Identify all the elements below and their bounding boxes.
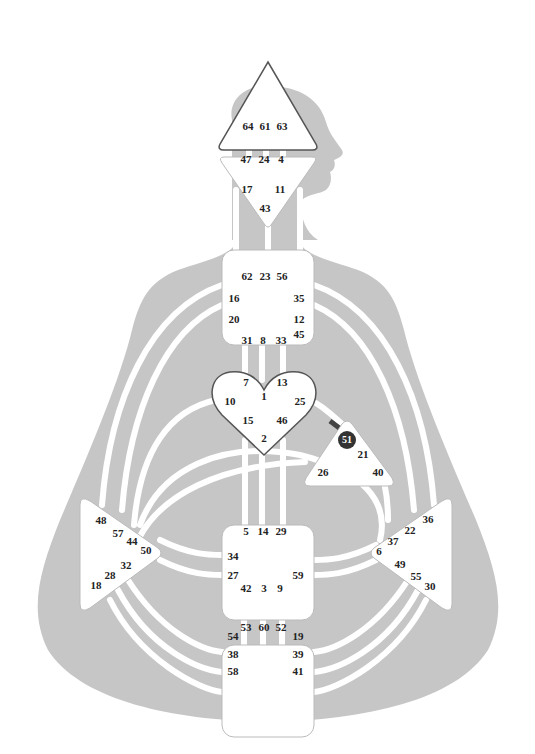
gate-17[interactable]: 17: [242, 183, 254, 195]
gate-14[interactable]: 14: [258, 525, 270, 537]
gate-58[interactable]: 58: [228, 665, 240, 677]
gate-27[interactable]: 27: [228, 569, 240, 581]
gate-13[interactable]: 13: [277, 376, 289, 388]
gate-43[interactable]: 43: [260, 202, 272, 214]
bodygraph: 64 61 63 47 24 4 17 11 43 62 23 56 16 35…: [0, 0, 535, 754]
gate-46[interactable]: 46: [277, 414, 289, 426]
gate-36[interactable]: 36: [423, 513, 435, 525]
gate-28[interactable]: 28: [105, 569, 117, 581]
gate-44[interactable]: 44: [127, 535, 139, 547]
gate-56[interactable]: 56: [277, 270, 289, 282]
gate-30[interactable]: 30: [425, 580, 437, 592]
gate-64[interactable]: 64: [243, 120, 255, 132]
gate-50[interactable]: 50: [141, 544, 153, 556]
gate-53[interactable]: 53: [241, 621, 253, 633]
gate-9[interactable]: 9: [277, 582, 283, 594]
gate-42[interactable]: 42: [241, 582, 253, 594]
gate-11[interactable]: 11: [275, 183, 285, 195]
gate-21[interactable]: 21: [358, 448, 369, 460]
gate-34[interactable]: 34: [228, 550, 240, 562]
gate-8[interactable]: 8: [260, 334, 266, 346]
gate-48[interactable]: 48: [96, 514, 108, 526]
gate-45[interactable]: 45: [294, 328, 306, 340]
gate-10[interactable]: 10: [225, 395, 237, 407]
gate-51[interactable]: 51: [342, 434, 352, 445]
gate-39[interactable]: 39: [293, 648, 305, 660]
gate-18[interactable]: 18: [91, 579, 103, 591]
gate-29[interactable]: 29: [276, 525, 288, 537]
gate-23[interactable]: 23: [260, 270, 272, 282]
gate-1[interactable]: 1: [261, 390, 267, 402]
gate-15[interactable]: 15: [243, 414, 255, 426]
gate-16[interactable]: 16: [229, 292, 241, 304]
gate-12[interactable]: 12: [294, 313, 306, 325]
gate-38[interactable]: 38: [228, 648, 240, 660]
gate-59[interactable]: 59: [293, 569, 305, 581]
gate-55[interactable]: 55: [411, 570, 423, 582]
gate-47[interactable]: 47: [241, 153, 253, 165]
gate-19[interactable]: 19: [293, 630, 305, 642]
gate-26[interactable]: 26: [318, 466, 330, 478]
gate-4[interactable]: 4: [278, 153, 284, 165]
gate-60[interactable]: 60: [259, 621, 271, 633]
gate-22[interactable]: 22: [405, 524, 417, 536]
gate-3[interactable]: 3: [261, 582, 267, 594]
gate-32[interactable]: 32: [121, 559, 133, 571]
gate-20[interactable]: 20: [229, 313, 241, 325]
gate-52[interactable]: 52: [276, 621, 288, 633]
gate-25[interactable]: 25: [295, 395, 307, 407]
gate-6[interactable]: 6: [376, 545, 382, 557]
gate-7[interactable]: 7: [243, 376, 249, 388]
gate-40[interactable]: 40: [373, 466, 385, 478]
gate-62[interactable]: 62: [242, 270, 254, 282]
gate-49[interactable]: 49: [395, 558, 407, 570]
gate-31[interactable]: 31: [242, 334, 253, 346]
gate-54[interactable]: 54: [228, 630, 240, 642]
gate-63[interactable]: 63: [277, 120, 289, 132]
gate-41[interactable]: 41: [293, 665, 304, 677]
gate-57[interactable]: 57: [113, 527, 125, 539]
gate-2[interactable]: 2: [261, 432, 267, 444]
gate-61[interactable]: 61: [260, 120, 271, 132]
gate-24[interactable]: 24: [259, 153, 271, 165]
gate-5[interactable]: 5: [243, 525, 249, 537]
gate-35[interactable]: 35: [294, 292, 306, 304]
gate-37[interactable]: 37: [388, 535, 400, 547]
gate-33[interactable]: 33: [276, 334, 288, 346]
